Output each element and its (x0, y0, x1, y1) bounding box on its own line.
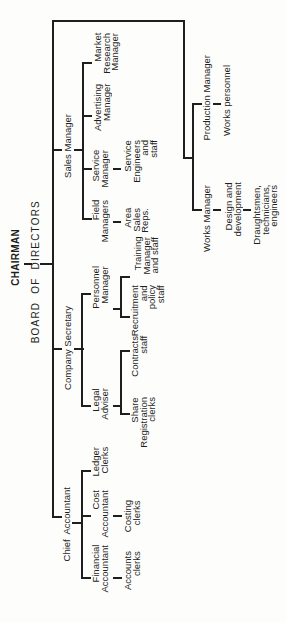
line-main-trunk (52, 20, 54, 518)
line-service-engineers (113, 168, 121, 170)
line-acct-branch (81, 470, 83, 579)
cost-accountant-label: Cost Accountant (92, 490, 109, 538)
line-to-cost-acct (81, 515, 91, 517)
company-secretary-label: Company Secretary (64, 306, 73, 390)
line-trunk-secretary (52, 348, 62, 350)
production-manager-label: Production Manager (203, 55, 212, 141)
sales-manager-label: Sales Manager (64, 114, 73, 178)
accounts-clerks-label: Accounts clerks (124, 551, 141, 590)
line-top-run (52, 20, 185, 22)
advertising-manager-label: Advertising Manager (94, 84, 111, 131)
line-secretary-branch (81, 293, 83, 407)
line-prod-works-personnel (213, 103, 221, 105)
line-to-market-research (82, 62, 92, 64)
service-engineers-label: Service Engineers and staff (124, 140, 158, 183)
personnel-manager-label: Personnel Manager (92, 266, 109, 309)
line-sales-branch (82, 62, 84, 220)
line-accounts-clerks (113, 577, 122, 579)
line-to-advertising (82, 115, 92, 117)
chairman-label: CHAIRMAN (12, 229, 21, 286)
costing-clerks-label: Costing clerks (124, 500, 141, 532)
recruitment-label: Recruitment and policy staff (131, 285, 165, 336)
line-to-training (120, 276, 130, 278)
line-area-sales (113, 221, 121, 223)
field-managers-label: Field Managers (92, 200, 109, 242)
line-production-bar (192, 103, 194, 211)
draughtsmen-label: Draughtsmen, technicians, engineers (253, 185, 279, 245)
board-of-directors-label: BOARD OF DIRECTORS (32, 200, 41, 343)
line-legal-branch (120, 350, 122, 415)
ledger-clerks-label: Ledger Clerks (92, 447, 109, 477)
training-manager-label: Training Manager and staff (134, 237, 160, 275)
line-personnel-branch (120, 276, 122, 318)
chief-accountant-label: Chief Accountant (63, 487, 72, 561)
line-costing (113, 515, 122, 517)
share-registration-label: Share Registration clerks (131, 397, 157, 448)
market-research-label: Market Research Manager (94, 33, 120, 74)
legal-adviser-label: Legal Adviser (92, 388, 109, 420)
line-trunk-sales (52, 149, 62, 151)
works-manager-label: Works Manager (203, 185, 212, 252)
design-development-label: Design and development (225, 182, 242, 236)
works-personnel-label: Works personnel (223, 65, 232, 136)
financial-accountant-label: Financial Accountant (92, 545, 109, 593)
contracts-staff-label: Contracts staff (131, 336, 148, 377)
area-sales-reps-label: Area Sales Reps. (124, 208, 150, 233)
line-production-drop (183, 20, 185, 159)
service-manager-label: Service Manager (92, 150, 109, 188)
line-design-draughtsmen (243, 209, 251, 211)
line-works-design (213, 209, 221, 211)
